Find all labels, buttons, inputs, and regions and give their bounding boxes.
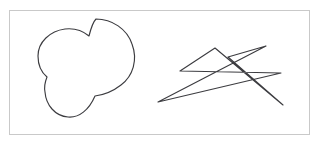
star-polyline-figure xyxy=(158,46,283,105)
drawing-surface xyxy=(0,0,321,146)
screenshot-canvas xyxy=(0,0,321,146)
trefoil-loops-figure xyxy=(38,19,135,117)
